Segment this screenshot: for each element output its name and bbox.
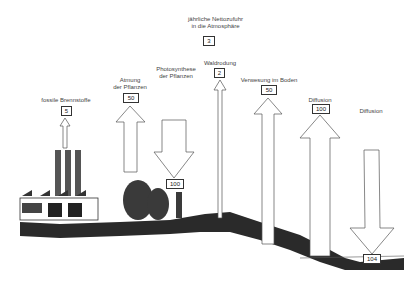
value-box-soil-decomposition: 50	[261, 85, 277, 95]
label-photosynthesis-1: Photosynthese	[154, 66, 198, 73]
title-line1: jährliche Nettozufuhr	[183, 16, 248, 23]
arrow-deforestation	[214, 80, 226, 218]
value-box-fossil-fuels: 5	[61, 106, 72, 116]
arrow-fossil-fuels	[60, 118, 70, 148]
arrow-diffusion-up	[300, 115, 340, 256]
ground-terrain	[20, 212, 404, 270]
label-fossil-fuels: fossile Brennstoffe	[40, 97, 92, 104]
label-plant-respiration-1: Atmung	[112, 77, 148, 84]
value-box-deforestation: 2	[214, 68, 225, 78]
value-box-diffusion-down: 104	[363, 254, 381, 264]
label-diffusion-up: Diffusion	[304, 97, 336, 104]
value-box-photosynthesis: 100	[166, 179, 184, 189]
value-box-plant-respiration: 50	[123, 93, 139, 103]
value-box-diffusion-up: 100	[312, 104, 330, 114]
arrow-photosynthesis	[154, 120, 194, 178]
label-diffusion-down: Diffusion	[355, 108, 387, 115]
arrow-plant-respiration	[116, 106, 145, 172]
title-line2: in die Atmosphäre	[183, 23, 248, 30]
factory-illustration	[20, 150, 98, 220]
label-deforestation: Waldrodung	[203, 60, 237, 67]
value-box-net-input: 3	[203, 36, 215, 46]
label-plant-respiration-2: der Pflanzen	[112, 84, 148, 91]
arrow-diffusion-down	[350, 150, 394, 254]
label-soil-decomposition: Verwesung im Boden	[240, 77, 298, 84]
label-photosynthesis-2: der Pflanzen	[154, 73, 198, 80]
